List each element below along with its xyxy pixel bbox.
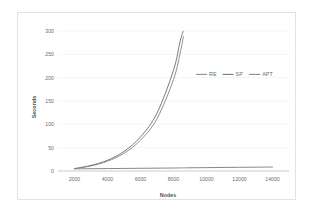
y-tick-label: 150: [45, 98, 54, 104]
x-tick-label: 4000: [102, 176, 114, 182]
x-tick-label: 12000: [232, 176, 247, 182]
series-line-re: [75, 37, 184, 169]
x-tick-label: 14000: [265, 176, 280, 182]
legend-label-sp: SP: [236, 71, 244, 77]
chart-frame: 050100150200250300 200040006000800010000…: [17, 12, 296, 200]
y-axis-tick-labels: 050100150200250300: [45, 28, 54, 174]
y-tick-label: 200: [45, 75, 54, 81]
x-tick-label: 6000: [135, 176, 147, 182]
legend-label-re: RE: [209, 71, 217, 77]
y-tick-label: 50: [48, 145, 54, 151]
x-tick-label: 8000: [168, 176, 180, 182]
y-axis-title: Seconds: [31, 96, 37, 118]
gridlines-group: [58, 31, 289, 171]
y-tick-label: 100: [45, 121, 54, 127]
x-tick-label: 10000: [199, 176, 214, 182]
x-axis-title: Nodes: [160, 192, 176, 198]
y-tick-label: 300: [45, 28, 54, 34]
y-tick-label: 250: [45, 51, 54, 57]
line-chart: 050100150200250300 200040006000800010000…: [18, 13, 297, 201]
x-axis-tick-labels: 2000400060008000100001200014000: [69, 176, 280, 182]
data-series-group: [75, 31, 273, 169]
series-line-apt: [75, 167, 273, 169]
series-line-sp: [75, 31, 184, 169]
legend-label-apt: APT: [262, 71, 273, 77]
x-tick-label: 2000: [69, 176, 81, 182]
chart-legend: RESPAPT: [196, 71, 273, 77]
y-tick-label: 0: [51, 168, 54, 174]
